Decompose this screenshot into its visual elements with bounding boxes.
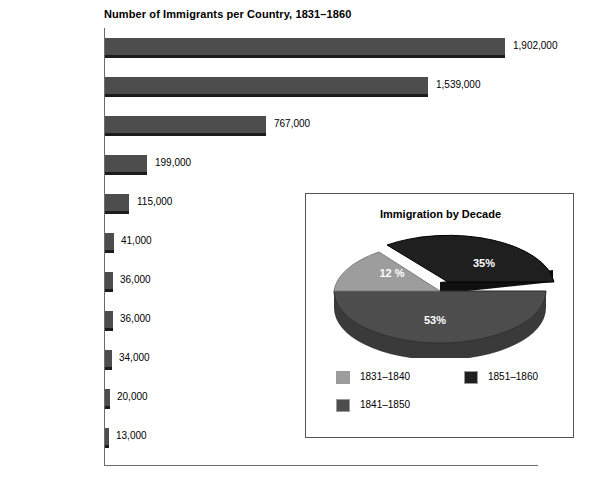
bar-shape bbox=[105, 233, 114, 253]
pie-chart-svg: 12 % 35% 53% bbox=[314, 228, 567, 358]
bar-value-label: 36,000 bbox=[120, 274, 151, 285]
bar-shape bbox=[105, 77, 428, 97]
bar-value-label: 36,000 bbox=[120, 313, 151, 324]
pie-label-1831-1840: 12 % bbox=[379, 267, 404, 279]
bar-value-label: 199,000 bbox=[155, 157, 191, 168]
legend-swatch-icon bbox=[336, 371, 350, 384]
bar-value-label: 41,000 bbox=[121, 235, 152, 246]
bar-value-label: 34,000 bbox=[119, 352, 150, 363]
pie-chart: 12 % 35% 53% bbox=[314, 228, 567, 358]
x-axis-baseline bbox=[104, 465, 538, 466]
bar-shape bbox=[105, 194, 129, 214]
bar-shape bbox=[105, 311, 113, 331]
legend-swatch-icon bbox=[464, 371, 478, 384]
bar-shape bbox=[105, 155, 147, 175]
pie-chart-title: Immigration by Decade bbox=[306, 208, 575, 220]
legend-swatch-icon bbox=[336, 399, 350, 412]
bar-shape bbox=[105, 116, 266, 136]
legend-label: 1841–1850 bbox=[360, 399, 410, 410]
page-title: Number of Immigrants per Country, 1831–1… bbox=[104, 8, 351, 20]
bar-value-label: 20,000 bbox=[117, 391, 148, 402]
legend-label: 1831–1840 bbox=[360, 371, 410, 382]
inset-pie-panel: Immigration by Decade 12 % 35% 53% 1831–… bbox=[305, 193, 574, 438]
bar-shape bbox=[105, 272, 113, 292]
bar-value-label: 1,902,000 bbox=[513, 40, 558, 51]
bar-value-label: 767,000 bbox=[274, 118, 310, 129]
bar-shape bbox=[105, 389, 110, 409]
bar-shape bbox=[105, 350, 112, 370]
pie-label-1851-1860: 35% bbox=[473, 257, 495, 269]
bar-value-label: 1,539,000 bbox=[436, 79, 481, 90]
legend-label: 1851–1860 bbox=[488, 371, 538, 382]
bar-value-label: 115,000 bbox=[137, 196, 172, 207]
bar-value-label: 13,000 bbox=[116, 430, 147, 441]
pie-label-1841-1850: 53% bbox=[424, 314, 446, 326]
bar-shape bbox=[105, 428, 109, 448]
bar-shape bbox=[105, 38, 505, 58]
